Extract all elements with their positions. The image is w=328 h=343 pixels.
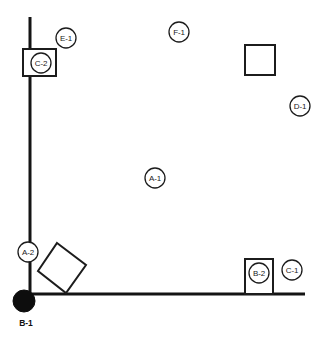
- empty-square-shape: [245, 45, 275, 75]
- diagram-canvas: C-2 B-2 E-1 F-1 D-1 A-1 A-2: [0, 0, 328, 343]
- c2-label: C-2: [35, 59, 48, 68]
- boxed-callout-b2[interactable]: B-2: [245, 259, 273, 294]
- callout-a2[interactable]: A-2: [18, 242, 38, 262]
- diamond-shape: [38, 243, 86, 293]
- d1-label: D-1: [294, 102, 307, 111]
- marker-b1[interactable]: B-1: [13, 290, 35, 328]
- e1-label: E-1: [60, 34, 73, 43]
- b1-label: B-1: [19, 318, 33, 328]
- callout-a1[interactable]: A-1: [145, 168, 165, 188]
- c1-label: C-1: [286, 266, 299, 275]
- boxed-callout-c2[interactable]: C-2: [23, 49, 56, 76]
- f1-label: F-1: [173, 28, 185, 37]
- a2-label: A-2: [22, 248, 35, 257]
- site-plan-drawing: C-2 B-2 E-1 F-1 D-1 A-1 A-2: [0, 0, 328, 343]
- callout-f1[interactable]: F-1: [169, 22, 189, 42]
- callout-e1[interactable]: E-1: [56, 28, 76, 48]
- callout-d1[interactable]: D-1: [290, 96, 310, 116]
- b2-label: B-2: [253, 269, 266, 278]
- a1-label: A-1: [149, 174, 162, 183]
- callout-c1[interactable]: C-1: [282, 260, 302, 280]
- b1-filled-node-icon: [13, 290, 35, 312]
